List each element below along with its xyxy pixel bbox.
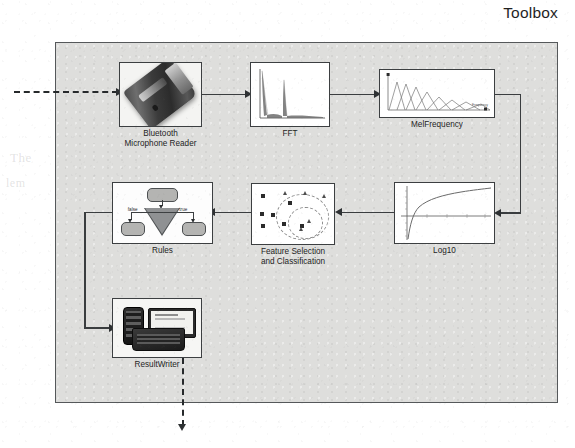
wire-melfrequency-out [495, 94, 521, 96]
log10-curve-plot [395, 183, 494, 243]
data-point [271, 213, 275, 217]
dongle-led-icon [152, 104, 160, 112]
block-frame [250, 62, 330, 127]
external-output-arrow-line [182, 358, 184, 426]
decision-tree-leaf-false [121, 222, 145, 236]
block-frame: false true [112, 182, 213, 244]
wire-log10-to-feature-selection [340, 212, 394, 214]
data-point-alt [299, 227, 303, 231]
result-writer-photo [113, 299, 201, 357]
block-frame [119, 62, 202, 127]
arrowhead-into-feature-selection [335, 208, 342, 216]
block-caption-line-1: Feature Selection [261, 247, 325, 258]
log10-plot-svg [395, 183, 495, 244]
block-caption-line-1: Bluetooth [143, 129, 178, 140]
fft-spectrum-plot [251, 63, 329, 126]
wire-feature-selection-to-rules [213, 212, 251, 214]
laptop-icon [132, 328, 185, 351]
data-point-alt [283, 191, 287, 195]
block-caption: Log10 [433, 246, 456, 257]
wire-into-log10 [500, 212, 521, 214]
block-frame: Frequency [379, 69, 495, 118]
cluster-boundary-inner [288, 207, 323, 239]
block-rules[interactable]: false true Rules [112, 182, 213, 244]
wire-bluetooth-to-fft [202, 94, 248, 96]
block-caption: ResultWriter [135, 360, 180, 371]
usb-dongle-icon [123, 62, 198, 127]
ghost-text: The [10, 150, 32, 166]
arrowhead-into-log10 [494, 209, 501, 217]
wire-rules-out [84, 212, 112, 214]
block-result-writer[interactable]: ResultWriter [112, 298, 202, 358]
decision-tree-leaf-true [182, 222, 206, 236]
fft-plot-svg [251, 63, 330, 127]
block-log10[interactable]: Log10 [394, 182, 495, 244]
data-point [261, 224, 265, 228]
decision-tree-diagram: false true [113, 183, 212, 243]
block-frame [112, 298, 202, 358]
block-frame [394, 182, 495, 244]
data-point-alt [303, 191, 307, 195]
external-output-arrowhead [178, 424, 186, 431]
dongle-label-stripe [139, 77, 168, 101]
wire-fft-to-melfrequency [330, 94, 377, 96]
wire-into-resultwriter [84, 327, 112, 329]
ghost-text: lem [6, 176, 26, 191]
block-mel-frequency[interactable]: Frequency MelFrequency [379, 69, 495, 118]
block-caption: FFT [282, 129, 297, 140]
data-point [288, 201, 292, 205]
block-caption-line-2: and Classification [261, 257, 325, 268]
classification-scatter-plot [252, 184, 334, 244]
data-point [261, 194, 265, 198]
mel-axis-label: Frequency [472, 103, 488, 107]
block-caption: MelFrequency [411, 120, 463, 131]
external-input-arrow-line [14, 91, 118, 93]
data-point-alt [307, 219, 311, 223]
block-feature-selection-and-classification[interactable]: Feature Selection and Classification [251, 183, 335, 245]
data-point [282, 222, 286, 226]
bluetooth-dongle-photo [120, 63, 201, 126]
block-frame [251, 183, 335, 245]
laptop-keyboard [137, 334, 180, 345]
block-caption-line-2: Microphone Reader [125, 139, 197, 150]
data-point [260, 212, 264, 216]
data-point-alt [322, 194, 326, 198]
mel-filterbank-plot: Frequency [380, 70, 494, 117]
decision-tree-branch-bar [131, 212, 194, 213]
figure-title: Toolbox [503, 4, 558, 22]
block-caption: Rules [152, 246, 173, 257]
wire-melfrequency-down [520, 94, 522, 214]
usb-connector-icon [165, 63, 194, 95]
mel-plot-svg: Frequency [380, 70, 495, 118]
block-fft[interactable]: FFT [250, 62, 330, 127]
block-bluetooth-microphone-reader[interactable]: Bluetooth Microphone Reader [119, 62, 202, 127]
wire-rules-down [84, 212, 86, 329]
figure-canvas: The lem 1 Toolbox Bluetooth Microphone R… [0, 0, 575, 448]
